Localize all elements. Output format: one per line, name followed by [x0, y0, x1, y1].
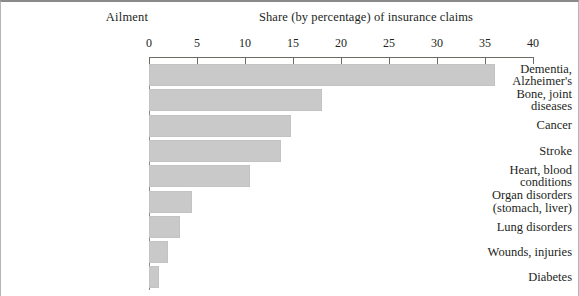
bar — [149, 89, 322, 111]
chart-title: Share (by percentage) of insurance claim… — [196, 10, 536, 25]
x-axis-tick-mark — [197, 57, 198, 64]
x-axis-tick-labels: 0510152025303540 — [149, 36, 533, 56]
category-label: Wounds, injuries — [431, 246, 579, 259]
bar-row — [149, 165, 250, 187]
bar-chart: Ailment Share (by percentage) of insuran… — [0, 0, 579, 296]
x-axis-tick-label: 15 — [287, 36, 299, 51]
x-axis-tick-label: 40 — [527, 36, 539, 51]
x-axis-tick-label: 25 — [383, 36, 395, 51]
category-label: Heart, blood conditions — [431, 164, 579, 189]
x-axis-tick-mark — [149, 57, 150, 64]
bar-row — [149, 266, 159, 288]
bar — [149, 241, 168, 263]
bar — [149, 266, 159, 288]
category-label: Cancer — [431, 119, 579, 132]
category-label: Dementia, Alzheimer's — [431, 63, 579, 88]
x-axis-tick-label: 10 — [239, 36, 251, 51]
category-label: Diabetes — [431, 271, 579, 284]
bar — [149, 216, 180, 238]
category-axis-title: Ailment — [82, 10, 172, 25]
bar-row — [149, 216, 180, 238]
x-axis-tick-label: 30 — [431, 36, 443, 51]
category-label: Stroke — [431, 145, 579, 158]
x-axis-tick-label: 5 — [194, 36, 200, 51]
bar-row — [149, 191, 192, 213]
bar — [149, 140, 281, 162]
bar — [149, 165, 250, 187]
bar-row — [149, 241, 168, 263]
x-axis-tick-label: 35 — [479, 36, 491, 51]
category-label: Organ disorders (stomach, liver) — [431, 189, 579, 214]
bar-row — [149, 115, 291, 137]
category-label: Lung disorders — [431, 221, 579, 234]
bar — [149, 115, 291, 137]
category-label: Bone, joint diseases — [431, 88, 579, 113]
x-axis-tick-label: 0 — [146, 36, 152, 51]
bar — [149, 191, 192, 213]
x-axis-tick-mark — [245, 57, 246, 64]
x-axis-tick-mark — [389, 57, 390, 64]
x-axis-tick-mark — [293, 57, 294, 64]
x-axis-tick-label: 20 — [335, 36, 347, 51]
x-axis-tick-mark — [341, 57, 342, 64]
bar-row — [149, 140, 281, 162]
bar-row — [149, 89, 322, 111]
